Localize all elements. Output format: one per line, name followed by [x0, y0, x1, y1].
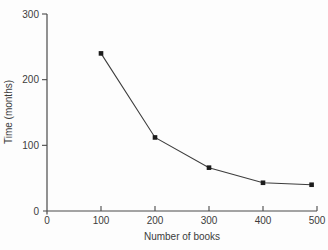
x-axis-label: Number of books: [144, 231, 220, 242]
chart-canvas: 01002003004005000100200300 Number of boo…: [0, 0, 328, 250]
data-layer: [99, 51, 314, 187]
data-point: [261, 180, 266, 185]
x-tick-label: 500: [309, 215, 326, 226]
line-chart-figure: 01002003004005000100200300 Number of boo…: [0, 0, 328, 250]
y-tick-label: 0: [33, 206, 39, 217]
y-tick-label: 100: [22, 140, 39, 151]
data-point: [153, 135, 158, 140]
y-tick-label: 300: [22, 9, 39, 20]
y-tick-label: 200: [22, 74, 39, 85]
x-tick-label: 200: [147, 215, 164, 226]
axes-layer: 01002003004005000100200300: [22, 9, 325, 227]
x-tick-label: 400: [255, 215, 272, 226]
data-point: [207, 165, 212, 170]
data-line: [101, 53, 312, 184]
data-point: [99, 51, 104, 56]
x-tick-label: 0: [44, 215, 50, 226]
x-tick-label: 300: [201, 215, 218, 226]
y-axis-label: Time (months): [3, 80, 14, 144]
x-tick-label: 100: [93, 215, 110, 226]
data-point: [309, 182, 314, 187]
